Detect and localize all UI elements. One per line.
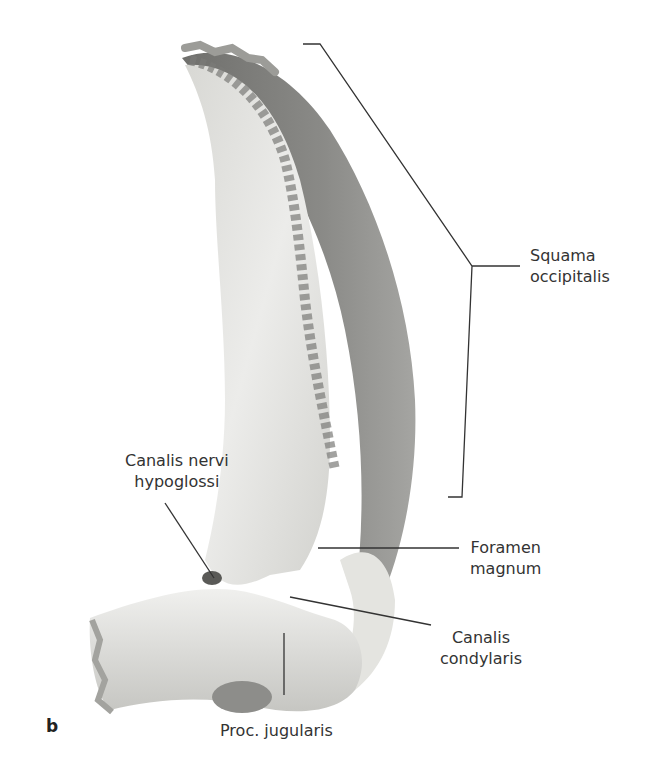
label-squama-occipitalis: Squama occipitalis <box>530 245 610 287</box>
anatomy-figure: Squama occipitalis Canalis nervi hypoglo… <box>0 0 666 778</box>
label-foramen-magnum: Foramen magnum <box>470 537 541 579</box>
occipital-bone-illustration <box>0 0 666 778</box>
panel-letter: b <box>46 716 58 736</box>
hypoglossal-canal <box>202 571 222 585</box>
condyle <box>212 681 272 713</box>
label-canalis-condylaris: Canalis condylaris <box>440 627 522 669</box>
label-proc-jugularis: Proc. jugularis <box>220 720 333 741</box>
label-canalis-nervi-hypoglossi: Canalis nervi hypoglossi <box>125 450 229 492</box>
